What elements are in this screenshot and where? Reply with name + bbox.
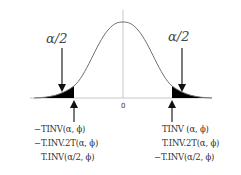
right-formula-1: TINV (α, ϕ) [162, 125, 209, 134]
right-critical-value-arrow [168, 100, 176, 122]
right-formula-3: −T.INV(α/2, ϕ) [154, 153, 214, 162]
right-alpha-half-label: α/2 [168, 30, 189, 43]
right-tail-area [172, 86, 212, 98]
right-area-arrow [178, 48, 186, 92]
left-formula-3: T.INV(α/2, ϕ) [41, 153, 94, 162]
distribution-plot [0, 0, 241, 175]
left-tail-area [34, 86, 74, 98]
right-formula-2: T.INV.2T(α, ϕ) [162, 139, 219, 148]
left-alpha-half-label: α/2 [46, 32, 67, 45]
left-area-arrow [58, 48, 66, 92]
left-formula-1: −TINV(α, ϕ) [34, 125, 85, 134]
left-critical-value-arrow [70, 100, 78, 122]
center-zero-label: 0 [121, 103, 125, 110]
left-formula-2: −T.INV.2T(α, ϕ) [34, 139, 98, 148]
